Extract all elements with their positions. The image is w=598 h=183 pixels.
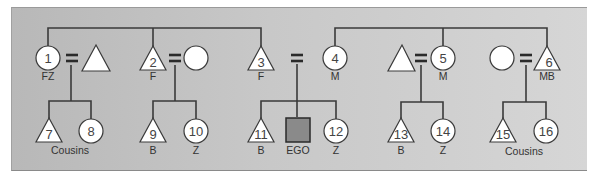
person-9-male: 9 B [140,118,166,156]
person-5-female: 5 M [431,46,455,82]
person-ego: EGO [286,118,310,156]
svg-text:M: M [331,70,340,82]
person-spouse6-female [490,46,514,70]
svg-text:7: 7 [45,127,52,142]
svg-text:MB: MB [539,70,555,82]
svg-text:1: 1 [44,51,51,66]
sibling-line-paternal [48,28,261,47]
marriage-symbol [66,55,78,61]
svg-text:16: 16 [539,124,553,139]
svg-text:8: 8 [87,124,94,139]
person-2-male: 2 F [140,46,166,82]
svg-text:5: 5 [439,51,446,66]
descent-line-1 [49,65,91,119]
descent-line-2 [153,65,196,119]
descent-line-5 [401,65,443,119]
person-1-female: 1 FZ [36,46,60,82]
svg-text:13: 13 [394,127,408,142]
person-8-female: 8 [79,119,103,143]
svg-text:B: B [397,144,404,156]
person-16-female: 16 [534,119,558,143]
svg-text:14: 14 [436,124,450,139]
svg-text:2: 2 [149,55,156,70]
svg-text:Z: Z [333,144,340,156]
svg-text:12: 12 [329,124,343,139]
person-14-female: 14 Z [431,119,455,156]
svg-text:B: B [257,144,264,156]
marriage-symbol [415,55,427,61]
svg-text:EGO: EGO [286,144,309,156]
svg-text:F: F [150,70,156,82]
svg-text:B: B [149,144,156,156]
kinship-diagram: 1 FZ 2 F 3 F 4 M 5 M 6 MB 7 [0,0,598,183]
cousins-label-right: Cousins [505,145,543,157]
sibling-line-maternal [335,28,547,47]
marriage-symbol [520,55,532,61]
cousins-label-left: Cousins [51,144,89,156]
person-12-female: 12 Z [324,119,348,156]
marriage-symbol [291,55,303,61]
person-4-female: 4 M [323,46,347,82]
svg-text:FZ: FZ [42,70,55,82]
person-7-male: 7 [36,118,62,142]
person-10-female: 10 Z [184,119,208,156]
svg-text:11: 11 [254,127,268,142]
svg-text:F: F [258,70,264,82]
svg-text:4: 4 [331,51,338,66]
svg-text:10: 10 [189,124,203,139]
person-3-male: 3 F [248,46,274,82]
svg-text:Z: Z [440,144,447,156]
svg-text:Z: Z [193,144,200,156]
person-11-male: 11 B [248,118,274,156]
svg-text:9: 9 [149,127,156,142]
descent-line-ego [261,64,336,119]
svg-text:3: 3 [257,55,264,70]
svg-text:M: M [439,70,448,82]
person-15-male: 15 [490,118,516,142]
person-13-male: 13 B [388,118,414,156]
marriage-symbol [169,55,181,61]
person-spouse2-female [184,46,208,70]
person-spouse5-male [388,45,415,71]
svg-text:15: 15 [496,127,510,142]
person-6-male: 6 MB [534,46,560,82]
svg-text:6: 6 [545,55,552,70]
person-spouse1-male [82,45,110,71]
